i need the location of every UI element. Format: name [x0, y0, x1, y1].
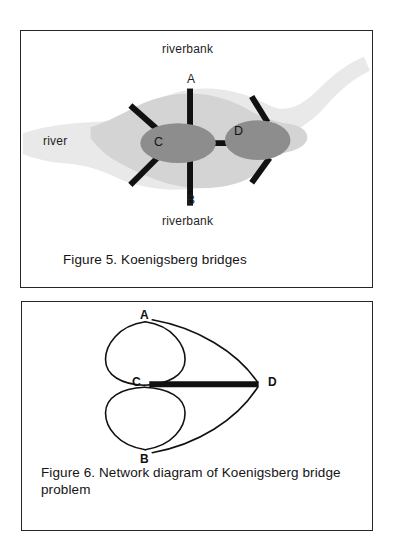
figure-6-panel: A B C D Figure 6. Network diagram of Koe…	[21, 301, 373, 531]
map-label-c: C	[154, 136, 163, 149]
edge-b-c-right	[144, 387, 185, 449]
node-label-a: A	[140, 309, 149, 321]
map-label-b: B	[187, 194, 195, 206]
map-label-d: D	[234, 125, 243, 138]
map-label-a: A	[187, 73, 195, 85]
node-label-d: D	[268, 376, 277, 388]
koenigsberg-map-graphic	[21, 31, 372, 287]
page-canvas: riverbank riverbank river A B C D Figure…	[0, 0, 395, 555]
edge-b-c-left	[106, 387, 146, 449]
figure-5-panel: riverbank riverbank river A B C D Figure…	[20, 30, 373, 288]
edge-a-d	[152, 320, 257, 382]
figure-5-caption: Figure 5. Koenigsberg bridges	[63, 251, 353, 268]
edge-a-c-right	[144, 322, 185, 385]
island-node-c	[140, 123, 216, 163]
label-riverbank-top: riverbank	[162, 43, 213, 55]
node-label-c: C	[132, 376, 141, 388]
figure-6-caption: Figure 6. Network diagram of Koenigsberg…	[41, 464, 363, 499]
edge-b-d	[152, 387, 257, 452]
label-river: river	[43, 135, 67, 147]
label-riverbank-bottom: riverbank	[162, 215, 213, 227]
